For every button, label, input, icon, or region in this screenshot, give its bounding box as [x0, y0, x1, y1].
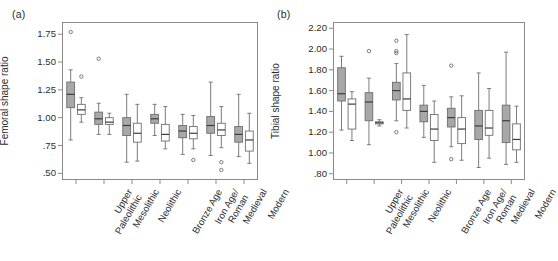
y-tick-label: 1.80 — [285, 64, 327, 75]
boxplot-box — [393, 39, 401, 134]
boxplot-box — [133, 104, 141, 161]
y-tick-label: 1.60 — [285, 85, 327, 96]
y-tick-label: 1.00 — [14, 112, 56, 123]
boxplot-box — [485, 89, 493, 159]
y-tick-label: 2.00 — [285, 43, 327, 54]
boxplot-box — [67, 30, 75, 140]
y-tick-label: .75 — [14, 140, 56, 151]
boxplot-box — [123, 94, 131, 162]
boxplot-box — [513, 106, 521, 162]
panel-a: (a) Femoral shape ratio .50.751.001.251.… — [0, 0, 265, 261]
panel-b: (b) Tibial shape ratio .801.001.201.401.… — [265, 0, 530, 261]
boxplot-box — [502, 52, 510, 164]
y-tick-label: 1.25 — [14, 84, 56, 95]
boxplot-box — [235, 94, 243, 156]
boxplot-box — [95, 57, 103, 134]
boxplot-box — [151, 104, 159, 135]
boxplot-box — [77, 75, 85, 122]
boxplot-box — [365, 49, 373, 144]
y-tick-label: 1.20 — [285, 126, 327, 137]
y-tick-label: .50 — [14, 167, 56, 178]
boxplot-box — [207, 82, 215, 155]
boxplot-box — [420, 85, 428, 137]
boxplot-box — [376, 120, 384, 126]
y-tick-label: .80 — [285, 168, 327, 179]
y-tick-label: 1.00 — [285, 147, 327, 158]
y-tick-label: 1.40 — [285, 105, 327, 116]
boxplot-box — [348, 92, 356, 141]
y-tick-label: 1.50 — [14, 56, 56, 67]
boxplot-box — [105, 113, 113, 134]
boxplot-box — [430, 101, 438, 162]
y-tick-label: 2.20 — [285, 22, 327, 33]
boxplot-box — [189, 115, 197, 161]
boxplot-box — [245, 113, 253, 163]
boxplot-box — [217, 107, 225, 172]
boxplot-box — [403, 34, 411, 128]
boxplot-box — [475, 73, 483, 168]
y-tick-label: 1.75 — [14, 28, 56, 39]
boxplot-box — [179, 114, 187, 154]
boxplot-box — [161, 107, 169, 149]
boxplot-box — [447, 64, 455, 161]
boxplot-box — [338, 56, 346, 130]
boxplot-box — [458, 96, 466, 160]
